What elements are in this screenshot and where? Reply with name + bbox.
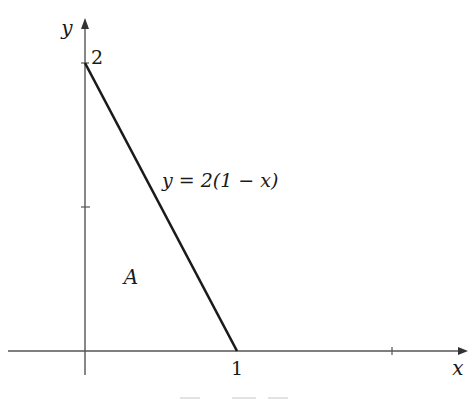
x-axis-label: x <box>452 356 463 380</box>
region-diagram: 1 x 2 y y = 2(1 − x) A <box>0 0 470 400</box>
y-axis-label: y <box>60 16 73 40</box>
y-axis: 2 y <box>60 16 103 375</box>
y-axis-arrow-icon <box>81 18 89 29</box>
x-axis: 1 x <box>8 347 468 380</box>
y-tick-label-2: 2 <box>91 46 103 68</box>
boundary-line <box>85 63 237 351</box>
line-equation-label: y = 2(1 − x) <box>161 169 278 191</box>
x-tick-label-1: 1 <box>231 357 243 379</box>
x-axis-arrow-icon <box>458 347 468 355</box>
region-label: A <box>122 265 138 289</box>
